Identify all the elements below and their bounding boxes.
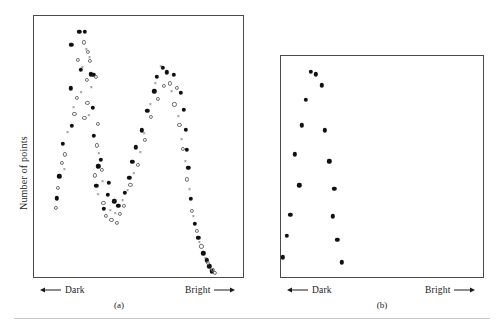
panel-a-dark-label: Dark [65, 285, 85, 295]
data-point-cross [183, 158, 188, 163]
right-arrow-icon [453, 286, 475, 294]
data-point-cross [79, 90, 84, 95]
data-point-cross [158, 64, 163, 69]
panel-b-caption: (b) [370, 300, 394, 310]
data-point-cross [80, 64, 85, 69]
panel-b-bright-annotation: Bright [425, 285, 475, 295]
data-point-cross [131, 170, 136, 175]
y-axis-label: Number of points [18, 136, 29, 210]
data-point-cross [208, 266, 213, 271]
right-arrow-icon [213, 286, 235, 294]
data-point-cross [176, 113, 181, 118]
data-point-cross [120, 197, 125, 202]
left-arrow-icon [287, 286, 309, 294]
data-point-cross [100, 179, 105, 184]
data-point-cross [169, 89, 174, 94]
left-arrow-icon [40, 286, 62, 294]
figure-container: Number of points Dark Bright (a) [0, 0, 504, 328]
panel-b-dark-annotation: Dark [287, 285, 332, 295]
panel-b-plot-frame [280, 55, 484, 278]
data-point-cross [179, 136, 184, 141]
data-point-cross [141, 131, 146, 136]
data-point-cross [138, 150, 143, 155]
data-point-cross [113, 211, 118, 216]
data-point-cross [65, 130, 70, 135]
panel-b-dark-label: Dark [312, 285, 332, 295]
data-point-cross [62, 167, 67, 172]
data-point-cross [71, 104, 76, 109]
data-point-cross [187, 186, 192, 191]
panel-b-bright-label: Bright [425, 285, 450, 295]
data-point-cross [86, 112, 91, 117]
data-point-cross [148, 102, 153, 107]
data-point-cross [191, 214, 196, 219]
data-point-cross [87, 55, 92, 60]
data-point-cross [89, 84, 94, 89]
data-point-cross [153, 80, 158, 85]
panel-a-bright-annotation: Bright [185, 285, 235, 295]
panel-a-bright-label: Bright [185, 285, 210, 295]
data-point-cross [84, 46, 89, 51]
panel-b [280, 55, 484, 278]
data-point-cross [203, 256, 208, 261]
data-point-cross [95, 192, 100, 197]
bottom-divider-rule [14, 318, 490, 319]
panel-a-plot-frame [33, 15, 244, 278]
panel-a [33, 15, 244, 278]
data-point-cross [125, 187, 130, 192]
data-point-cross [96, 150, 101, 155]
panel-a-caption: (a) [107, 300, 131, 310]
panel-a-dark-annotation: Dark [40, 285, 85, 295]
data-point-cross [197, 240, 202, 245]
